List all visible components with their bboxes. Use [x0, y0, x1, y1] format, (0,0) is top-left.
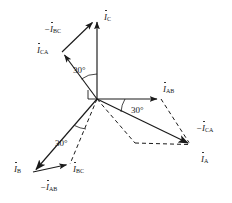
- label-i-ab-symbol: I: [163, 85, 166, 94]
- label-minus-i-ca-sub: CA: [205, 127, 213, 133]
- vector-i-bc: [70, 99, 97, 164]
- dashed-helper-a: [97, 99, 135, 143]
- vector-minus-i-ca: [161, 99, 189, 143]
- label-i-b-sub: B: [17, 168, 21, 174]
- angle-arc-bottom: [75, 126, 87, 130]
- label-i-bc-sub: BC: [76, 168, 84, 174]
- angle-arc-right: [121, 99, 125, 112]
- phasor-diagram: IC −IBC ICA IAB −ICA IA IB −IAB IBC 30° …: [0, 0, 232, 203]
- label-i-bc-symbol: I: [73, 165, 76, 174]
- label-minus-i-ab-symbol: I: [46, 183, 49, 192]
- angle-label-top: 30°: [73, 66, 86, 75]
- dashed-base-a: [135, 143, 188, 145]
- label-i-ab-sub: AB: [166, 88, 174, 94]
- vector-minus-i-ab: [33, 165, 67, 172]
- label-i-a-sub: A: [204, 158, 208, 164]
- label-i-ab: IAB: [163, 85, 174, 94]
- label-i-b: IB: [14, 165, 21, 174]
- label-minus-i-ab-sub: AB: [49, 186, 57, 192]
- vector-i-b: [36, 99, 97, 170]
- label-i-a-symbol: I: [201, 155, 204, 164]
- label-i-ca-sub: CA: [40, 49, 48, 55]
- label-i-ca: ICA: [37, 46, 48, 55]
- angle-label-right: 30°: [131, 106, 144, 115]
- phasor-diagram-canvas: [0, 0, 232, 203]
- label-minus-i-ca-symbol: I: [202, 124, 205, 133]
- vector-i-ca: [65, 55, 98, 99]
- label-i-c-symbol: I: [104, 13, 107, 22]
- label-i-b-symbol: I: [14, 165, 17, 174]
- label-i-c: IC: [104, 13, 111, 22]
- vector-minus-i-bc: [62, 23, 93, 53]
- label-i-c-sub: C: [107, 16, 111, 22]
- label-i-a: IA: [201, 155, 208, 164]
- angle-label-bottom: 30°: [55, 139, 68, 148]
- label-minus-i-ca: −ICA: [196, 124, 213, 133]
- label-minus-i-ab: −IAB: [40, 183, 57, 192]
- label-i-bc: IBC: [73, 165, 84, 174]
- label-minus-i-bc: −IBC: [44, 25, 61, 34]
- label-i-ca-symbol: I: [37, 46, 40, 55]
- label-minus-i-bc-sub: BC: [53, 28, 61, 34]
- label-minus-i-bc-symbol: I: [50, 25, 53, 34]
